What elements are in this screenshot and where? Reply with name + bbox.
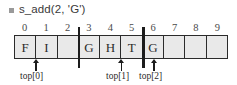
square-bullet-icon xyxy=(9,8,14,13)
array-cell[interactable]: T xyxy=(121,36,142,58)
stack-array-diagram: s_add(2, 'G') 0123456789 FIGHTG top[0] t… xyxy=(0,0,237,85)
pointer-label-top1: top[1] xyxy=(106,71,129,82)
array-cell[interactable]: G xyxy=(143,36,164,58)
index-label: 5 xyxy=(121,22,142,35)
index-label: 7 xyxy=(164,22,185,35)
index-label-strip: 0123456789 xyxy=(14,22,228,35)
arrow-shaft xyxy=(35,62,36,71)
index-label: 4 xyxy=(100,22,121,35)
index-label: 8 xyxy=(185,22,206,35)
index-label: 1 xyxy=(35,22,56,35)
index-label: 6 xyxy=(142,22,163,35)
diagram-title: s_add(2, 'G') xyxy=(9,2,85,18)
array-cell[interactable] xyxy=(185,36,206,58)
diagram-title-text: s_add(2, 'G') xyxy=(19,4,85,16)
array-cell[interactable]: F xyxy=(15,36,36,58)
pointer-arrow-top1 xyxy=(118,59,125,71)
array-cell[interactable]: I xyxy=(36,36,57,58)
array-cell[interactable] xyxy=(207,36,227,58)
array-cell[interactable] xyxy=(164,36,185,58)
index-label: 9 xyxy=(207,22,228,35)
arrow-shaft xyxy=(121,62,122,71)
array-cell[interactable]: H xyxy=(100,36,121,58)
partition-after-index-5 xyxy=(142,27,144,68)
pointer-label-top0: top[0] xyxy=(20,71,43,82)
array-cell[interactable]: G xyxy=(79,36,100,58)
arrow-shaft xyxy=(153,62,154,71)
pointer-arrow-top2 xyxy=(150,59,157,71)
index-label: 3 xyxy=(78,22,99,35)
pointer-label-top2: top[2] xyxy=(139,71,162,82)
pointer-arrow-top0 xyxy=(32,59,39,71)
array-tape: FIGHTG xyxy=(14,35,228,59)
partition-after-index-2 xyxy=(78,27,80,68)
index-label: 2 xyxy=(57,22,78,35)
array-cell[interactable] xyxy=(58,36,79,58)
index-label: 0 xyxy=(14,22,35,35)
